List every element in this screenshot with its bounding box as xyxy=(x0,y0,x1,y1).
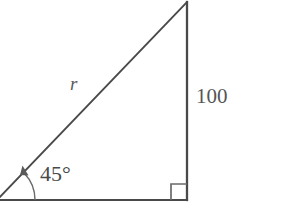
angle-arc xyxy=(25,174,36,201)
angle-arc-arrowhead xyxy=(20,166,29,176)
angle-label: 45° xyxy=(40,163,71,185)
figure-canvas: r 100 45° xyxy=(0,0,292,208)
vertical-leg-label: 100 xyxy=(196,86,228,107)
triangle-hypotenuse-line xyxy=(0,2,187,200)
right-angle-marker xyxy=(171,184,187,200)
hypotenuse-label: r xyxy=(70,74,77,93)
